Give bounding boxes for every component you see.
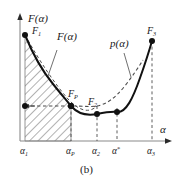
point-label-F1-sub: 1	[38, 30, 41, 37]
figure-container: F(α) α F(α) p(α) F1 FP F2 F3 α1 αP α2 α*…	[0, 0, 183, 182]
x-tick-alphaP: αP	[66, 147, 75, 157]
leader-line-p	[124, 53, 131, 77]
x-tick-alpha1: α1	[20, 147, 28, 157]
point-level-left	[22, 103, 28, 109]
y-axis-label: F(α)	[28, 13, 48, 24]
x-tick-alpha3: α3	[147, 147, 155, 157]
leader-line-F	[48, 50, 57, 76]
point-label-F2: F2	[88, 97, 97, 107]
point-label-F3: F3	[147, 26, 156, 36]
x-tick-alpha2-sub: 2	[97, 151, 100, 157]
point-label-FP: FP	[68, 89, 78, 99]
point-level-right	[68, 103, 74, 109]
x-tick-alpha-star-sup: *	[117, 145, 120, 152]
x-tick-alpha2: α2	[92, 147, 100, 157]
x-tick-alpha-star: α*	[112, 147, 120, 157]
point-F2	[94, 111, 100, 117]
x-tick-alpha3-sub: 3	[152, 151, 155, 157]
point-label-F2-sub: 2	[94, 101, 97, 108]
x-axis-label: α	[160, 124, 166, 135]
dashed-curve-label: p(α)	[110, 38, 129, 49]
point-F1	[22, 32, 28, 38]
x-tick-alphaP-sub: P	[71, 151, 75, 157]
point-label-F1: F1	[32, 26, 41, 36]
figure-caption: (b)	[80, 163, 93, 175]
y-axis	[17, 13, 22, 141]
point-F3	[149, 38, 155, 44]
drop-lines	[71, 41, 152, 141]
solid-curve-label: F(α)	[57, 31, 77, 42]
point-min	[114, 109, 120, 115]
point-label-FP-sub: P	[74, 93, 78, 100]
x-tick-alpha1-sub: 1	[25, 151, 28, 157]
point-label-F3-sub: 3	[153, 30, 156, 37]
